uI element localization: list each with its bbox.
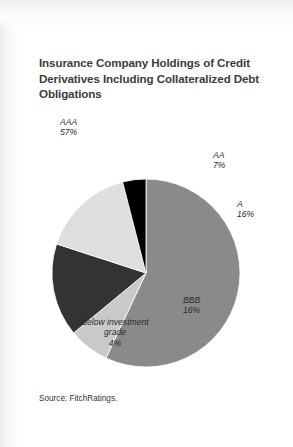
pie-label-a: A 16% [237, 199, 254, 219]
pie-label-a-value: 16% [237, 209, 254, 219]
pie-label-big-line2: grade [59, 327, 171, 337]
pie-label-bbb-name: BBB [183, 295, 200, 305]
page-background: Insurance Company Holdings of Credit Der… [0, 0, 293, 447]
pie-label-aaa: AAA 57% [60, 117, 77, 137]
pie-label-aaa-value: 57% [60, 127, 77, 137]
pie-label-big-line1: Below investment [59, 317, 171, 327]
pie-chart: AAA 57% AA 7% A 16% BBB 16% Below invest… [25, 95, 270, 385]
pie-label-aa-name: AA [213, 150, 225, 160]
chart-card: Insurance Company Holdings of Credit Der… [25, 45, 270, 426]
chart-source: Source: FitchRatings. [39, 394, 117, 403]
pie-label-bbb: BBB 16% [183, 295, 200, 315]
pie-label-aa: AA 7% [213, 150, 225, 170]
pie-label-big-value: 4% [59, 338, 171, 348]
pie-label-a-name: A [237, 199, 254, 209]
pie-label-below-investment-grade: Below investment grade 4% [59, 317, 171, 348]
pie-label-aa-value: 7% [213, 160, 225, 170]
pie-label-aaa-name: AAA [60, 117, 77, 127]
pie-label-bbb-value: 16% [183, 305, 200, 315]
